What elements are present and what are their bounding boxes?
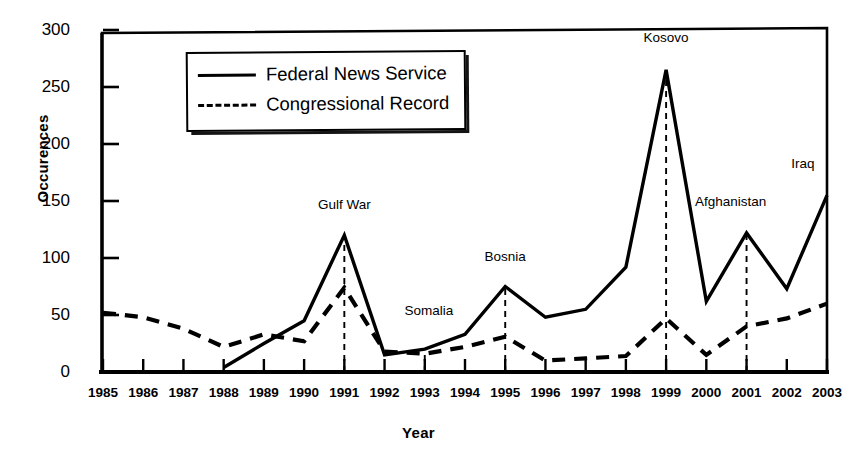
annotation-label: Bosnia	[425, 250, 585, 264]
annotation-label: Afghanistan	[651, 195, 811, 209]
annotation-label: Kosovo	[586, 31, 746, 45]
legend-item-congressional-record: Congressional Record	[198, 88, 449, 120]
legend-key-dashed-line-icon	[198, 98, 256, 112]
legend-key-solid-line-icon	[198, 68, 256, 82]
legend-label: Congressional Record	[266, 94, 449, 114]
annotation-label: Somalia	[349, 304, 509, 318]
legend-label: Federal News Service	[266, 64, 447, 84]
legend-item-federal-news-service: Federal News Service	[198, 58, 447, 90]
chart-legend: Federal News Service Congressional Recor…	[186, 50, 467, 132]
annotation-label: Iraq	[723, 157, 847, 171]
annotation-label: Gulf War	[264, 198, 424, 212]
